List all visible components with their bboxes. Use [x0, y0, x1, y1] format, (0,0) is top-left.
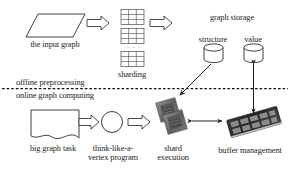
node-input-graph: [26, 14, 85, 37]
shard-table-2: [121, 29, 144, 44]
edge-structure-to-shard: [180, 64, 211, 95]
shard-table-1: [121, 10, 144, 25]
node-shard-execution: [156, 98, 188, 135]
node-big-graph-task: [31, 110, 79, 139]
label-shard-execution: shard execution: [153, 144, 193, 163]
node-value-store: [244, 44, 263, 63]
label-buffer-management: buffer management: [218, 146, 282, 155]
node-vertex-program: [102, 112, 123, 133]
label-vertex-program: think-like-a-vertex program: [85, 144, 141, 163]
label-graph-storage: graph storage: [210, 13, 254, 22]
edge-program-to-shard: [128, 115, 150, 129]
node-buffer-management: [227, 106, 282, 138]
label-online-graph-computing: online graph computing: [16, 91, 94, 100]
node-sharding: [121, 10, 144, 67]
label-input-graph: the input graph: [30, 40, 79, 49]
sharding-ellipsis: · · ·: [124, 45, 144, 51]
label-value-store: value: [244, 35, 262, 44]
edge-input-to-sharding: [87, 16, 109, 30]
label-offline-preprocessing: offline preprocessing: [16, 78, 85, 87]
shard-table-3: [121, 52, 144, 67]
node-structure-store: [204, 44, 223, 63]
label-big-graph-task: big graph task: [30, 144, 76, 153]
edge-task-to-program: [79, 115, 99, 129]
edge-sharding-to-storage: [150, 16, 172, 30]
label-structure-store: structure: [199, 35, 227, 44]
architecture-diagram: the input graph sharding · · · graph sto…: [0, 0, 290, 171]
label-sharding: sharding: [118, 70, 146, 79]
